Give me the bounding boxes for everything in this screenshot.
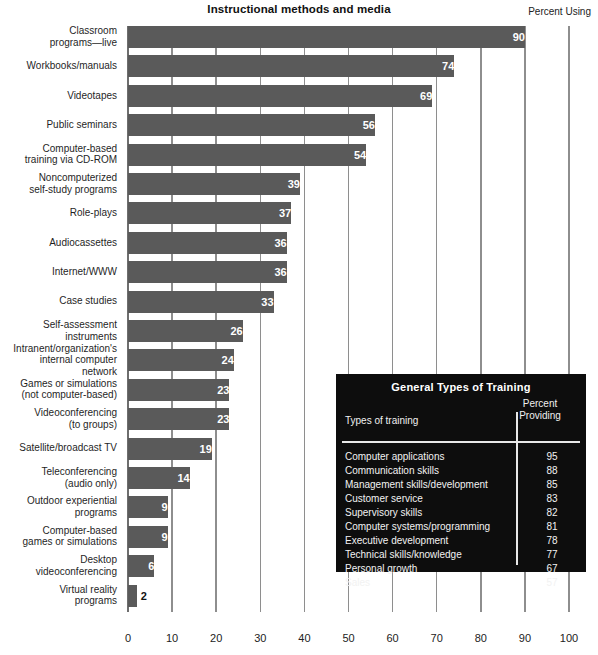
table-cell-percent-providing: 57	[518, 576, 586, 590]
category-label: Self-assessmentinstruments	[0, 319, 122, 342]
bar-value-label: 26	[128, 320, 248, 342]
category-label-line: self-study programs	[0, 184, 117, 196]
category-label: Videotapes	[0, 90, 122, 102]
category-label-line: Case studies	[0, 295, 117, 307]
bar-value-label: 6	[128, 555, 159, 577]
bar-row: 69	[128, 85, 569, 107]
inset-header-divider	[342, 441, 580, 443]
category-label-line: Desktop	[0, 554, 117, 566]
category-label-line: programs	[0, 507, 117, 519]
bar-value-label: 23	[128, 379, 234, 401]
category-label: Case studies	[0, 295, 122, 307]
bar-row: 24	[128, 349, 569, 371]
x-tick-label-50: 50	[334, 632, 364, 644]
bar-row: 33	[128, 291, 569, 313]
category-label: Classroomprograms—live	[0, 25, 122, 48]
category-label-line: Outdoor experiential	[0, 495, 117, 507]
bar-row: 37	[128, 202, 569, 224]
category-label: Role-plays	[0, 207, 122, 219]
category-label-line: Computer-based	[0, 525, 117, 537]
table-cell-training-type: Management skills/development	[345, 478, 488, 492]
category-label: Audiocassettes	[0, 237, 122, 249]
x-tick-label-70: 70	[422, 632, 452, 644]
table-cell-training-type: Executive development	[345, 534, 448, 548]
bar-value-label: 54	[128, 144, 371, 166]
table-cell-training-type: Customer service	[345, 492, 423, 506]
table-cell-percent-providing: 95	[518, 450, 586, 464]
bar-value-label: 19	[128, 438, 217, 460]
category-label-line: Public seminars	[0, 119, 117, 131]
x-tick-label-90: 90	[510, 632, 540, 644]
table-cell-percent-providing: 67	[518, 562, 586, 576]
bar-row: 54	[128, 144, 569, 166]
category-label: Public seminars	[0, 119, 122, 131]
category-label: Internet/WWW	[0, 266, 122, 278]
bar-value-label: 56	[128, 114, 380, 136]
category-label-line: Workbooks/manuals	[0, 60, 117, 72]
bar-row: 26	[128, 320, 569, 342]
table-cell-percent-providing: 82	[518, 506, 586, 520]
table-cell-percent-providing: 85	[518, 478, 586, 492]
category-label-line: Virtual reality	[0, 584, 117, 596]
chart-page: Instructional methods and media Percent …	[0, 0, 598, 655]
category-label-line: Computer-based	[0, 143, 117, 155]
bar-value-label: 33	[128, 291, 279, 313]
category-label-line: Self-assessment	[0, 319, 117, 331]
category-label: Computer-basedgames or simulations	[0, 525, 122, 548]
table-cell-training-type: Sales	[345, 576, 370, 590]
category-label-line: Games or simulations	[0, 378, 117, 390]
category-label-line: instruments	[0, 331, 117, 343]
bar-value-label: 36	[128, 261, 292, 283]
x-tick-label-80: 80	[466, 632, 496, 644]
category-label-line: Audiocassettes	[0, 237, 117, 249]
x-tick-label-0: 0	[113, 632, 143, 644]
category-label: Outdoor experientialprograms	[0, 495, 122, 518]
inset-table-header: Types of training Percent Providing	[336, 398, 586, 428]
category-label-line: videoconferencing	[0, 566, 117, 578]
inset-table-general-types-of-training: General Types of Training Types of train…	[336, 374, 586, 572]
x-tick-label-10: 10	[157, 632, 187, 644]
page-title: Instructional methods and media	[0, 3, 598, 15]
inset-column-header-percent-line2: Providing	[503, 410, 577, 422]
inset-column-header-percent: Percent Providing	[503, 398, 577, 421]
table-cell-percent-providing: 88	[518, 464, 586, 478]
inset-table-rows: Computer applications95Communication ski…	[336, 450, 586, 590]
category-label: Virtual realityprograms	[0, 584, 122, 607]
bar-value-label: 2	[137, 585, 171, 607]
category-label-line: internal computer	[0, 354, 117, 366]
x-tick-label-40: 40	[289, 632, 319, 644]
table-row: Computer systems/programming81	[336, 520, 586, 534]
category-label-line: network	[0, 366, 117, 378]
category-label: Desktopvideoconferencing	[0, 554, 122, 577]
x-tick-label-20: 20	[201, 632, 231, 644]
table-row: Technical skills/knowledge77	[336, 548, 586, 562]
bar-row: 36	[128, 261, 569, 283]
category-label-line: programs	[0, 595, 117, 607]
inset-column-header-types: Types of training	[345, 415, 418, 426]
category-label-line: Videoconferencing	[0, 407, 117, 419]
category-label: Workbooks/manuals	[0, 60, 122, 72]
bar-value-label: 74	[128, 55, 459, 77]
bar-row: 74	[128, 55, 569, 77]
x-tick-label-30: 30	[245, 632, 275, 644]
category-label-line: Intranent/organization's	[0, 343, 117, 355]
bar-value-label: 14	[128, 467, 195, 489]
table-cell-percent-providing: 78	[518, 534, 586, 548]
category-label-line: (audio only)	[0, 478, 117, 490]
bar-row: 36	[128, 232, 569, 254]
table-row: Personal growth67	[336, 562, 586, 576]
table-row: Computer applications95	[336, 450, 586, 464]
bar-value-label: 23	[128, 408, 234, 430]
table-cell-training-type: Supervisory skills	[345, 506, 422, 520]
category-label: Noncomputerizedself-study programs	[0, 172, 122, 195]
category-label: Videoconferencing(to groups)	[0, 407, 122, 430]
category-label-line: Role-plays	[0, 207, 117, 219]
category-label: Teleconferencing(audio only)	[0, 466, 122, 489]
table-cell-training-type: Computer applications	[345, 450, 445, 464]
category-label-line: Videotapes	[0, 90, 117, 102]
table-row: Supervisory skills82	[336, 506, 586, 520]
bar-value-label: 69	[128, 85, 437, 107]
bar-row: 90	[128, 26, 569, 48]
table-row: Executive development78	[336, 534, 586, 548]
table-cell-training-type: Technical skills/knowledge	[345, 548, 462, 562]
